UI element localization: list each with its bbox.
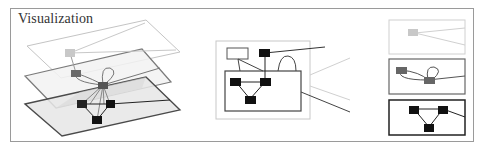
outline-node: [227, 48, 248, 59]
node-middle-a: [71, 70, 81, 77]
node-zoom-b: [260, 78, 271, 86]
node-zoom-a: [230, 78, 241, 86]
layer-top-box: [389, 20, 465, 54]
node-zoom-c: [245, 96, 256, 104]
node-middle-b: [98, 82, 108, 89]
stacked-layers-view: [25, 20, 180, 136]
node-bottom-b: [106, 100, 115, 108]
node-top: [65, 49, 75, 57]
node-bottom-a: [77, 100, 87, 108]
node-bottom-c: [92, 116, 102, 124]
separated-layers-view: [389, 20, 465, 135]
node-zoom-top: [259, 49, 270, 57]
cross-section-view: [216, 41, 350, 119]
visualization-diagram: [0, 0, 483, 150]
